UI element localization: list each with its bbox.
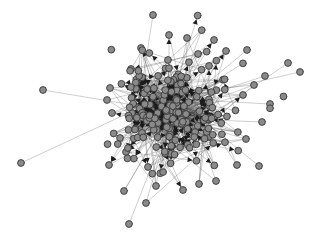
network-graph-canvas (0, 0, 322, 247)
network-graph-figure (0, 0, 322, 247)
